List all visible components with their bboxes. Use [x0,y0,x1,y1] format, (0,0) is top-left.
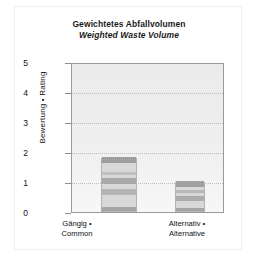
chart-card: Gewichtetes Abfallvolumen Weighted Waste… [14,6,242,250]
bar-gaengig-common[interactable] [101,158,137,212]
bar1-band-1 [102,189,136,195]
y-tick-label-1: 1 [8,179,28,187]
bar2-band-0 [176,208,204,211]
bar1-band-4 [102,157,136,163]
plot-area [71,63,224,213]
x-label-gaengig-line1: Gängig • [37,219,117,229]
y-tick-label-3: 3 [8,119,28,127]
x-label-gaengig-line2: Common [37,229,117,239]
bar2-band-3 [176,181,204,187]
bar2-band-1 [176,196,204,201]
x-label-gaengig-common: Gängig • Common [37,219,117,239]
y-tick-label-0: 0 [8,209,28,217]
gridline-3 [72,123,223,124]
y-tick-label-5: 5 [8,59,28,67]
bar1-band-0 [102,207,136,212]
gridline-2 [72,153,223,154]
x-label-alternativ-line2: Alternative [147,229,227,239]
bar1-band-2 [102,178,136,184]
x-label-alternativ-line1: Alternativ • [147,219,227,229]
y-axis-title: Bewertung • Rating [38,43,47,173]
y-tick-label-2: 2 [8,149,28,157]
chart-title-block: Gewichtetes Abfallvolumen Weighted Waste… [15,19,243,41]
x-label-alternativ-alternative: Alternativ • Alternative [147,219,227,239]
y-tick-label-4: 4 [8,89,28,97]
chart-title-german: Gewichtetes Abfallvolumen [15,19,243,30]
bar2-band-2 [176,190,204,193]
gridline-4 [72,93,223,94]
bar-alternativ-alternative[interactable] [175,182,205,212]
chart-subtitle-english: Weighted Waste Volume [15,30,243,41]
bar1-band-3 [102,172,136,175]
y-tick-mark-0 [65,213,71,214]
